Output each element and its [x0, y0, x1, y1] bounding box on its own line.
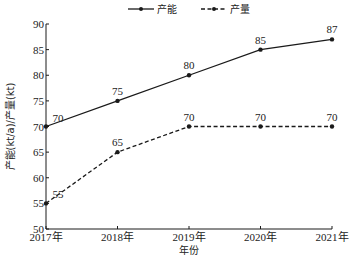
y-tick-label: 75 — [33, 95, 45, 107]
data-label: 70 — [53, 112, 65, 124]
y-tick-label: 80 — [33, 69, 45, 81]
legend-label: 产能 — [157, 3, 177, 15]
y-tick-label: 65 — [33, 146, 45, 158]
data-point — [44, 201, 48, 205]
x-tick-label: 2017年 — [30, 230, 63, 243]
data-label: 65 — [112, 136, 124, 148]
axes: 5055606570758085902017年2018年2019年2020年20… — [30, 18, 349, 243]
y-tick-label: 85 — [33, 44, 45, 56]
x-tick-label: 2019年 — [173, 230, 206, 243]
data-point — [258, 47, 262, 51]
data-point — [44, 124, 48, 128]
y-tick-label: 90 — [33, 18, 45, 30]
series-line-output — [46, 127, 332, 204]
legend-marker — [212, 7, 216, 11]
data-label: 55 — [53, 188, 65, 200]
data-point — [187, 73, 191, 77]
x-tick-label: 2020年 — [244, 230, 277, 243]
data-label: 70 — [327, 111, 339, 123]
y-tick-label: 55 — [33, 197, 45, 209]
series-group: 70758085875565707070 — [44, 23, 338, 205]
data-point — [115, 99, 119, 103]
data-point — [187, 124, 191, 128]
legend: 产能产量 — [128, 3, 250, 15]
data-point — [258, 124, 262, 128]
data-label: 80 — [184, 59, 196, 71]
line-chart: 产能产量 5055606570758085902017年2018年2019年20… — [0, 0, 364, 269]
data-label: 70 — [184, 111, 196, 123]
y-tick-label: 70 — [33, 121, 45, 133]
legend-marker — [139, 7, 143, 11]
x-tick-label: 2018年 — [101, 230, 134, 243]
y-axis-title: 产能(kt/a)/产量(kt) — [4, 82, 16, 170]
x-tick-label: 2021年 — [316, 230, 349, 243]
data-point — [330, 124, 334, 128]
x-axis-title: 年份 — [179, 244, 199, 256]
y-tick-label: 60 — [33, 172, 45, 184]
data-label: 85 — [255, 34, 267, 46]
data-point — [330, 37, 334, 41]
legend-label: 产量 — [230, 3, 250, 15]
data-label: 75 — [112, 85, 124, 97]
data-label: 70 — [255, 111, 267, 123]
data-label: 87 — [327, 23, 339, 35]
data-point — [115, 150, 119, 154]
